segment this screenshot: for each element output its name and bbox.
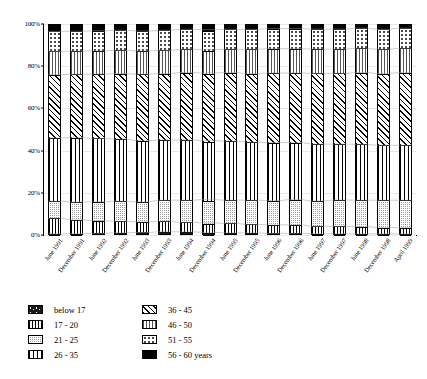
bar-segment bbox=[312, 29, 323, 49]
bar-segment bbox=[378, 200, 389, 227]
bar-column bbox=[399, 24, 412, 235]
bar-segment bbox=[115, 233, 126, 235]
bar-segment bbox=[290, 29, 301, 49]
bar-column bbox=[180, 24, 193, 235]
bar-segment bbox=[246, 233, 257, 235]
bar-segment bbox=[246, 49, 257, 73]
bar-column bbox=[48, 24, 61, 235]
bar-segment bbox=[400, 73, 411, 146]
legend-swatch bbox=[28, 320, 43, 329]
bar-segment bbox=[356, 227, 367, 234]
bar-segment bbox=[312, 73, 323, 144]
bar-segment bbox=[290, 225, 301, 233]
bar-column bbox=[224, 24, 237, 235]
bar-segment bbox=[71, 51, 82, 74]
bar-segment bbox=[115, 50, 126, 73]
legend-swatch bbox=[142, 320, 157, 329]
bar-segment bbox=[356, 144, 367, 200]
bar-segment bbox=[290, 200, 301, 225]
bar-segment bbox=[49, 31, 60, 51]
legend-swatch bbox=[28, 335, 43, 344]
bar-segment bbox=[225, 73, 236, 142]
bar-segment bbox=[137, 202, 148, 222]
bar-column bbox=[355, 24, 368, 235]
bar-segment bbox=[246, 29, 257, 49]
bar-segment bbox=[137, 31, 148, 51]
bar-segment bbox=[203, 24, 214, 31]
bar-segment bbox=[268, 233, 279, 235]
bar-segment bbox=[400, 145, 411, 200]
legend-swatch bbox=[142, 350, 157, 359]
bar-segment bbox=[159, 140, 170, 200]
bar-segment bbox=[246, 142, 257, 200]
bar-segment bbox=[93, 24, 104, 31]
bar-segment bbox=[137, 74, 148, 140]
bar-segment bbox=[356, 200, 367, 226]
bar-segment bbox=[312, 201, 323, 226]
bar-column bbox=[333, 24, 346, 235]
bar-segment bbox=[378, 74, 389, 146]
bar-column bbox=[289, 24, 302, 235]
x-axis-tick-label: June 1994 bbox=[174, 237, 195, 262]
bar-segment bbox=[203, 31, 214, 51]
legend-swatch bbox=[28, 305, 43, 314]
x-axis-tick-label: June 1997 bbox=[305, 237, 326, 262]
bar-segment bbox=[334, 226, 345, 233]
bar-segment bbox=[378, 29, 389, 49]
plot-area: 0%20%40%60%80%100% bbox=[44, 24, 416, 235]
bar-column bbox=[377, 24, 390, 235]
bar-segment bbox=[49, 234, 60, 236]
legend-label: below 17 bbox=[50, 305, 142, 315]
bar-column bbox=[202, 24, 215, 235]
stacked-bar-chart: 0%20%40%60%80%100% June 1991December 199… bbox=[0, 0, 427, 300]
bar-column bbox=[70, 24, 83, 235]
bar-segment bbox=[181, 49, 192, 72]
x-axis-labels: June 1991December 1991June 1992December … bbox=[44, 237, 416, 299]
bar-segment bbox=[378, 145, 389, 200]
bar-segment bbox=[137, 232, 148, 235]
bar-segment bbox=[400, 200, 411, 227]
bar-segment bbox=[334, 234, 345, 236]
bar-segment bbox=[268, 29, 279, 49]
legend-label: 26 - 35 bbox=[50, 350, 142, 360]
bar-segment bbox=[93, 202, 104, 221]
bar-segment bbox=[203, 142, 214, 201]
bar-segment bbox=[312, 49, 323, 73]
bar-segment bbox=[181, 200, 192, 222]
bar-segment bbox=[400, 48, 411, 72]
bar-segment bbox=[334, 49, 345, 73]
bar-segment bbox=[334, 73, 345, 144]
bar-segment bbox=[159, 200, 170, 221]
bar-segment bbox=[268, 73, 279, 143]
bar-segment bbox=[356, 28, 367, 48]
bar-segment bbox=[181, 73, 192, 141]
bar-segment bbox=[312, 144, 323, 201]
legend-label: 56 - 60 years bbox=[164, 350, 358, 360]
bar-segment bbox=[290, 49, 301, 73]
bar-segment bbox=[203, 224, 214, 233]
bar-segment bbox=[71, 24, 82, 31]
bar-segment bbox=[181, 222, 192, 231]
y-axis-tick-mark bbox=[41, 150, 44, 151]
bar-segment bbox=[159, 50, 170, 73]
bar-segment bbox=[71, 234, 82, 236]
bar-segment bbox=[49, 138, 60, 201]
bar-segment bbox=[268, 225, 279, 233]
bar-segment bbox=[290, 233, 301, 235]
legend-label: 36 - 45 bbox=[164, 305, 358, 315]
x-axis-tick-label: June 1991 bbox=[43, 237, 64, 262]
bar-segment bbox=[334, 200, 345, 226]
bar-segment bbox=[378, 49, 389, 73]
legend-swatch bbox=[142, 335, 157, 344]
bar-segment bbox=[71, 220, 82, 234]
bar-segment bbox=[115, 30, 126, 50]
bar-column bbox=[136, 24, 149, 235]
x-axis-tick-label: June 1996 bbox=[262, 237, 283, 262]
bar-column bbox=[267, 24, 280, 235]
bar-segment bbox=[356, 73, 367, 145]
bar-segment bbox=[225, 141, 236, 200]
bar-segment bbox=[225, 29, 236, 49]
bar-column bbox=[311, 24, 324, 235]
bar-segment bbox=[400, 28, 411, 48]
bar-column bbox=[92, 24, 105, 235]
